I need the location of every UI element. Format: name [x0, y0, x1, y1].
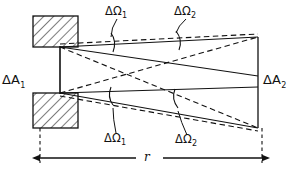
label-omega1-bottom: ΔΩ1 — [104, 133, 126, 147]
angle-arc-omega1-top — [111, 33, 115, 52]
ray-dashed-bottom-edge — [60, 96, 258, 131]
aperture-block-top — [33, 16, 78, 47]
ray-solid-bottom-upper — [60, 87, 258, 93]
leader-omega2-top — [176, 19, 186, 33]
label-omega2-bottom: ΔΩ2 — [175, 134, 197, 148]
label-omega1-top: ΔΩ1 — [105, 6, 127, 20]
label-omega2-top: ΔΩ2 — [174, 6, 196, 20]
diagram-canvas — [0, 0, 296, 171]
label-area-left: ΔA1 — [2, 73, 25, 90]
ray-solid-bottom-lower — [60, 93, 258, 128]
label-distance-r: r — [144, 151, 150, 163]
angle-arc-omega2-bottom — [174, 89, 178, 108]
ray-solid-top-lower — [60, 47, 258, 76]
label-area-right: ΔA2 — [263, 73, 286, 90]
leader-omega1-bottom — [113, 108, 116, 133]
solid-angle-diagram: ΔA1 ΔA2 ΔΩ1 ΔΩ2 ΔΩ1 ΔΩ2 r — [0, 0, 296, 171]
